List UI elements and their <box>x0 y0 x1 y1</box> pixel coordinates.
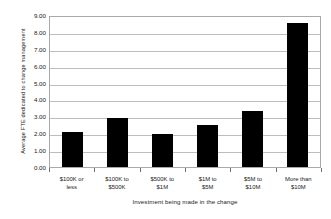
y-tick-label: 0.00 <box>22 165 46 171</box>
x-category-label-line1: $100K to <box>105 176 129 182</box>
x-tick-mark <box>321 168 322 172</box>
y-tick-label: 4.00 <box>22 97 46 103</box>
x-category-label: $100K orless <box>49 175 94 191</box>
y-axis-tick-labels: 0.001.002.003.004.005.006.007.008.009.00 <box>22 16 46 168</box>
x-category-label: More than$10M <box>276 175 321 191</box>
bar-slot <box>230 17 275 167</box>
x-tick-mark <box>49 168 50 172</box>
y-tick-label: 5.00 <box>22 80 46 86</box>
bar-chart: Average FTE dedicated to change manageme… <box>0 0 331 219</box>
y-tick-label: 3.00 <box>22 114 46 120</box>
bar[interactable] <box>287 23 309 167</box>
x-category-label-line2: $5M <box>185 183 230 191</box>
x-axis-tick-marks <box>49 168 321 172</box>
bar[interactable] <box>197 125 219 167</box>
x-category-label-line1: More than <box>285 176 312 182</box>
x-category-label-line2: $10M <box>230 183 275 191</box>
bar-slot <box>185 17 230 167</box>
bar[interactable] <box>152 134 174 167</box>
x-axis-title: Investment being made in the change <box>49 198 321 205</box>
y-tick-label: 8.00 <box>22 30 46 36</box>
x-category-label: $5M to$10M <box>230 175 275 191</box>
x-tick-mark <box>276 168 277 172</box>
x-axis-category-labels: $100K orless$100K to$500K$500K to$1M$1M … <box>49 175 321 191</box>
x-category-label: $100K to$500K <box>94 175 139 191</box>
x-category-label-line1: $500K to <box>151 176 175 182</box>
y-tick-label: 9.00 <box>22 13 46 19</box>
x-category-label-line2: $500K <box>94 183 139 191</box>
y-tick-label: 2.00 <box>22 131 46 137</box>
x-tick-mark <box>140 168 141 172</box>
x-category-label-line2: less <box>49 183 94 191</box>
x-category-label-line1: $5M to <box>244 176 262 182</box>
x-tick-mark <box>230 168 231 172</box>
x-category-label-line2: $10M <box>276 183 321 191</box>
x-category-label: $1M to$5M <box>185 175 230 191</box>
x-tick-mark <box>94 168 95 172</box>
bar-slot <box>95 17 140 167</box>
bar-slot <box>140 17 185 167</box>
x-category-label-line1: $1M to <box>199 176 217 182</box>
bar[interactable] <box>242 111 264 167</box>
bar-slot <box>50 17 95 167</box>
y-tick-label: 6.00 <box>22 64 46 70</box>
x-category-label: $500K to$1M <box>140 175 185 191</box>
x-tick-mark <box>185 168 186 172</box>
y-tick-label: 1.00 <box>22 148 46 154</box>
plot-area <box>49 16 321 168</box>
y-tick-label: 7.00 <box>22 47 46 53</box>
bar[interactable] <box>62 132 84 167</box>
x-category-label-line2: $1M <box>140 183 185 191</box>
x-category-label-line1: $100K or <box>60 176 84 182</box>
bar-slot <box>275 17 320 167</box>
bar[interactable] <box>107 118 129 167</box>
bars-group <box>50 17 320 167</box>
